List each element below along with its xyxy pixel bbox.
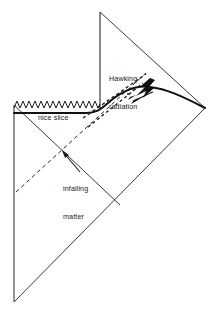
nice-slice-label: nice slice (38, 113, 69, 122)
infalling-matter-label-line2: matter (63, 212, 88, 221)
hawking-radiation-label-line2: radiation (109, 102, 137, 111)
zigzag-singularity-line (14, 101, 100, 108)
infalling-matter-label: infalling matter (63, 166, 88, 240)
infalling-matter-label-line1: infalling (63, 184, 88, 193)
hawking-radiation-label: Hawking radiation (109, 56, 137, 130)
diagonal-past-null-boundary (14, 108, 205, 302)
penrose-diagram: Hawking radiation nice slice infalling m… (0, 0, 213, 322)
penrose-diagram-svg (0, 0, 213, 322)
hawking-radiation-label-line1: Hawking (109, 74, 137, 83)
